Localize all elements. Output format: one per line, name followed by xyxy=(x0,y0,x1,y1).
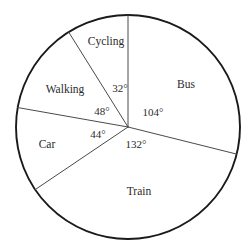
slice-label-walking: Walking xyxy=(46,83,85,96)
pie-chart-svg: Cycling Walking Car Train Bus 32° 48° 44… xyxy=(0,0,248,242)
angle-label-bus: 104° xyxy=(143,106,164,118)
slice-label-car: Car xyxy=(39,138,56,150)
pie-chart-figure: Cycling Walking Car Train Bus 32° 48° 44… xyxy=(0,0,248,242)
pie-radius-lines xyxy=(18,15,237,190)
angle-label-cycling: 32° xyxy=(112,82,127,94)
slice-label-bus: Bus xyxy=(177,78,195,90)
pie-radius-line-train xyxy=(35,127,128,190)
slice-label-train: Train xyxy=(127,185,152,197)
slice-label-cycling: Cycling xyxy=(88,35,125,48)
pie-radius-line-car xyxy=(18,108,128,127)
angle-label-train: 132° xyxy=(126,138,147,150)
angle-label-walking: 48° xyxy=(94,105,109,117)
angle-label-car: 44° xyxy=(90,128,105,140)
